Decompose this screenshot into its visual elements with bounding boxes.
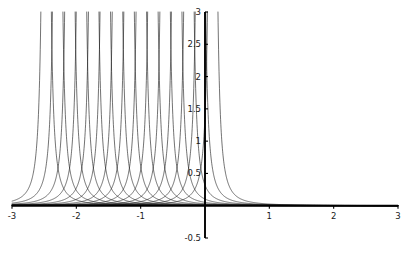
curve-path: [194, 12, 398, 206]
y-tick-label-neg0-5: -0.5: [184, 233, 201, 243]
curve-path: [206, 12, 398, 206]
curve-path: [51, 12, 397, 206]
x-tick-label-pos3: 3: [395, 211, 400, 221]
y-axis-tick-labels: -0.5 0.5 1 1.5 2 2.5 3: [184, 7, 201, 243]
y-tick-label-pos2: 2: [196, 72, 201, 82]
curve-path: [63, 12, 398, 206]
curve-path: [12, 12, 52, 203]
y-tick-label-pos1: 1: [196, 136, 201, 146]
x-tick-label-neg1: -1: [136, 211, 144, 221]
y-tick-label-pos3: 3: [196, 7, 201, 17]
x-tick-label-neg3: -3: [8, 211, 16, 221]
x-tick-label-neg2: -2: [72, 211, 80, 221]
curve-path: [12, 12, 65, 204]
y-tick-label-pos0-5: 0.5: [187, 168, 201, 178]
curve-path: [111, 12, 398, 206]
curve-path: [123, 12, 398, 206]
curve-path: [218, 12, 398, 206]
curve-path: [12, 12, 41, 201]
curve-path: [12, 12, 195, 206]
curve-path: [99, 12, 398, 206]
x-tick-label-pos1: 1: [267, 211, 272, 221]
curve-path: [134, 12, 398, 206]
x-tick-label-pos2: 2: [331, 211, 336, 221]
y-tick-label-pos1-5: 1.5: [187, 104, 201, 114]
chart-figure: -3 -2 -1 1 2 3 -0.5 0.5 1 1.5 2 2.5 3: [0, 0, 404, 255]
curve-path: [87, 12, 398, 206]
plot-canvas: -3 -2 -1 1 2 3 -0.5 0.5 1 1.5 2 2.5 3: [0, 0, 404, 255]
curve-path: [12, 12, 160, 205]
curve-path: [12, 12, 100, 205]
y-tick-label-pos2-5: 2.5: [187, 39, 201, 49]
